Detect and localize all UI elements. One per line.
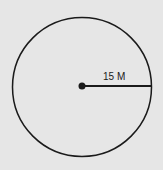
center-point (79, 83, 86, 90)
radius-label: 15 M (103, 71, 125, 82)
circle-diagram: 15 M (0, 0, 163, 170)
